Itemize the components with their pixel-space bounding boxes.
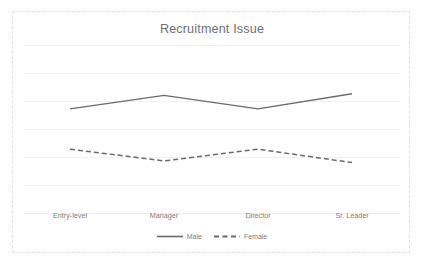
x-axis-category-labels: Entry-levelManagerDirectorSr. Leader	[24, 211, 400, 227]
line-series-female	[70, 149, 352, 162]
x-axis-label: Entry-level	[53, 211, 87, 220]
legend-label-male: Male	[187, 233, 202, 240]
legend-label-female: Female	[244, 233, 267, 240]
legend-dashed-line-icon	[214, 233, 240, 240]
chart-legend: Male Female	[0, 233, 424, 240]
line-series-male	[70, 94, 352, 109]
series-lines	[24, 45, 400, 213]
x-axis-label: Sr. Leader	[335, 211, 368, 220]
chart-container: Recruitment Issue Entry-levelManagerDire…	[0, 0, 424, 265]
plot-area	[24, 45, 400, 213]
x-axis-label: Manager	[150, 211, 178, 220]
legend-solid-line-icon	[157, 233, 183, 240]
chart-title: Recruitment Issue	[0, 22, 424, 36]
legend-item-female[interactable]: Female	[214, 233, 267, 240]
legend-item-male[interactable]: Male	[157, 233, 202, 240]
x-axis-label: Director	[245, 211, 270, 220]
